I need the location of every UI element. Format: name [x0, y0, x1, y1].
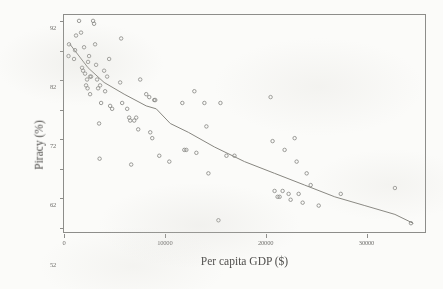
data-point — [83, 72, 86, 75]
data-point — [85, 78, 88, 81]
data-point — [67, 54, 70, 57]
data-point — [217, 219, 220, 222]
data-point — [273, 189, 276, 192]
data-point — [193, 90, 196, 93]
data-point — [181, 101, 184, 104]
data-point — [317, 204, 320, 207]
data-point — [293, 136, 296, 139]
data-point — [219, 101, 222, 104]
data-point — [283, 148, 286, 151]
data-point — [271, 139, 274, 142]
data-point — [339, 192, 342, 195]
x-tick-mark — [266, 234, 267, 238]
data-point — [301, 201, 304, 204]
x-tick-mark — [367, 234, 368, 238]
data-point — [297, 192, 300, 195]
data-point — [87, 54, 90, 57]
data-point — [233, 154, 236, 157]
data-point — [79, 31, 82, 34]
data-point — [195, 151, 198, 154]
data-point — [67, 43, 70, 46]
data-point — [409, 221, 412, 224]
data-point — [118, 81, 121, 84]
data-point — [134, 116, 137, 119]
figure-page: Piracy (%) 2232425262728292 010000200003… — [0, 0, 443, 289]
x-tick-mark — [64, 234, 65, 238]
x-tick-label: 30000 — [359, 239, 374, 246]
x-tick-label: 20000 — [258, 239, 273, 246]
data-point — [281, 189, 284, 192]
data-point — [107, 57, 110, 60]
data-point — [86, 87, 89, 90]
data-point — [289, 198, 292, 201]
x-tick-label: 0 — [62, 239, 65, 246]
data-point — [205, 125, 208, 128]
data-point — [125, 107, 128, 110]
data-point — [168, 160, 171, 163]
data-point — [98, 157, 101, 160]
data-point — [74, 34, 77, 37]
y-tick-label: 82 — [50, 83, 56, 90]
data-point — [103, 90, 106, 93]
data-point — [73, 48, 76, 51]
y-tick-label: 92 — [50, 23, 56, 30]
data-point — [94, 63, 97, 66]
data-point — [119, 37, 122, 40]
data-point — [144, 92, 147, 95]
data-point — [305, 172, 308, 175]
data-point — [269, 95, 272, 98]
data-point — [151, 136, 154, 139]
data-point — [129, 163, 132, 166]
data-point — [147, 95, 150, 98]
data-point — [149, 131, 152, 134]
data-point — [95, 78, 98, 81]
x-axis-title: Per capita GDP ($) — [63, 255, 426, 267]
data-point — [88, 92, 91, 95]
y-tick-label: 72 — [50, 142, 56, 149]
data-point — [72, 57, 75, 60]
data-point — [136, 128, 139, 131]
data-point — [158, 154, 161, 157]
y-axis-title: Piracy (%) — [33, 120, 45, 170]
data-point — [97, 122, 100, 125]
data-point — [99, 101, 102, 104]
data-point — [110, 107, 113, 110]
data-point — [102, 69, 105, 72]
data-point — [295, 160, 298, 163]
plot-area: 2232425262728292 0100002000030000 — [63, 14, 426, 233]
data-point — [225, 154, 228, 157]
data-points-layer — [64, 15, 425, 232]
data-point — [86, 60, 89, 63]
data-point — [93, 43, 96, 46]
y-tick-label: 62 — [50, 201, 56, 208]
data-point — [309, 183, 312, 186]
data-point — [105, 75, 108, 78]
data-point — [393, 186, 396, 189]
data-point — [120, 101, 123, 104]
data-point — [287, 192, 290, 195]
scatter-plot-figure: Piracy (%) 2232425262728292 010000200003… — [0, 0, 443, 289]
data-point — [77, 19, 80, 22]
x-tick-label: 10000 — [157, 239, 172, 246]
data-point — [98, 84, 101, 87]
data-point — [138, 78, 141, 81]
y-tick-label: 52 — [50, 260, 56, 267]
data-point — [207, 172, 210, 175]
data-point — [82, 46, 85, 49]
x-tick-mark — [165, 234, 166, 238]
data-point — [203, 101, 206, 104]
